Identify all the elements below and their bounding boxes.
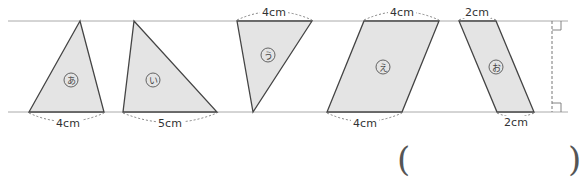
shape-i-triangle: い 5cm	[123, 21, 217, 130]
dimension-e-top: 4cm	[390, 6, 414, 19]
right-angle-bottom-icon	[552, 103, 561, 112]
right-angle-top-icon	[552, 21, 561, 30]
shape-u-triangle: う 4cm	[237, 6, 312, 112]
answer-input-area[interactable]	[412, 142, 562, 178]
shape-label-i: い	[149, 76, 158, 86]
dimension-u: 4cm	[262, 6, 286, 19]
shape-label-a: あ	[67, 76, 76, 86]
shape-label-u: う	[264, 51, 273, 61]
dimension-o-bottom: 2cm	[504, 116, 528, 129]
dimension-o-top: 2cm	[465, 6, 489, 19]
dimension-e-bottom: 4cm	[353, 117, 377, 130]
height-marker	[552, 21, 561, 112]
shape-o-parallelogram: お 2cm 2cm	[459, 6, 534, 129]
dimension-i: 5cm	[158, 117, 182, 130]
answer-open-paren: (	[397, 142, 410, 176]
shape-label-o: お	[492, 63, 501, 73]
dimension-a: 4cm	[56, 117, 80, 130]
answer-close-paren: )	[568, 142, 581, 176]
shape-label-e: え	[379, 63, 388, 73]
shape-e-parallelogram: え 4cm 4cm	[327, 6, 439, 130]
shape-a-triangle: あ 4cm	[29, 21, 104, 130]
